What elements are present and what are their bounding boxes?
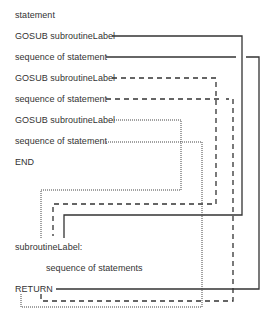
dotted-return-connector xyxy=(21,142,202,307)
dashed-return-connector xyxy=(41,99,233,301)
connector-lines xyxy=(0,0,273,324)
solid-call-connector xyxy=(64,36,242,238)
solid-return-connector xyxy=(56,57,259,289)
dashed-call-connector xyxy=(53,78,216,236)
dotted-call-connector xyxy=(41,120,181,238)
